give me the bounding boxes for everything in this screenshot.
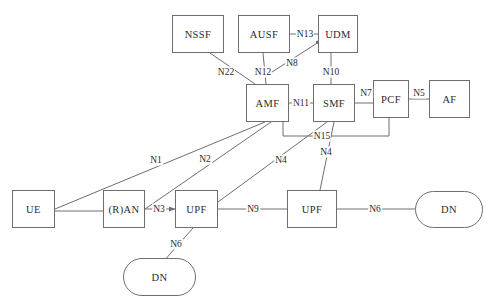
node-label-af: AF (442, 94, 456, 105)
edge-label-n3: N3 (152, 204, 166, 215)
node-label-nssf: NSSF (185, 29, 212, 40)
edge-label-n4b: N4 (319, 147, 333, 158)
edge-label-n7: N7 (359, 88, 373, 99)
edge-label-n13: N13 (296, 29, 314, 40)
edge-label-n5: N5 (412, 88, 426, 99)
node-ue[interactable]: UE (12, 190, 55, 228)
node-upf1[interactable]: UPF (175, 190, 218, 228)
node-label-dn1: DN (152, 272, 168, 283)
edge-label-n10: N10 (322, 67, 340, 78)
node-label-upf2: UPF (302, 204, 322, 215)
diagram-canvas: NSSFAUSFUDMAMFSMFPCFAFUE(R)ANUPFUPFDNDN … (0, 0, 495, 308)
node-ran[interactable]: (R)AN (103, 190, 145, 228)
edge-label-n9: N9 (246, 204, 260, 215)
node-label-upf1: UPF (186, 204, 206, 215)
edge-label-n11: N11 (292, 98, 310, 109)
node-label-pcf: PCF (381, 94, 401, 105)
node-udm[interactable]: UDM (318, 15, 358, 53)
node-label-ausf: AUSF (250, 29, 278, 40)
edge-label-n6b: N6 (368, 204, 382, 215)
node-label-ue: UE (26, 204, 41, 215)
node-ausf[interactable]: AUSF (238, 15, 290, 53)
edge-label-n2: N2 (198, 154, 212, 165)
node-label-amf: AMF (256, 98, 280, 109)
connector-n1 (55, 122, 265, 209)
node-label-dn2: DN (441, 204, 457, 215)
node-smf[interactable]: SMF (313, 84, 355, 122)
node-label-ran: (R)AN (108, 204, 139, 215)
node-label-smf: SMF (323, 98, 345, 109)
node-upf2[interactable]: UPF (287, 190, 337, 228)
edge-label-n15: N15 (313, 131, 331, 142)
node-pcf[interactable]: PCF (373, 80, 409, 118)
edge-label-n12: N12 (254, 67, 272, 78)
edge-label-n6a: N6 (169, 239, 183, 250)
edge-label-n1: N1 (149, 155, 163, 166)
node-amf[interactable]: AMF (246, 84, 289, 122)
edge-label-n22: N22 (217, 67, 235, 78)
node-dn1[interactable]: DN (123, 258, 196, 296)
edge-label-n4a: N4 (274, 155, 288, 166)
node-af[interactable]: AF (429, 80, 470, 118)
node-nssf[interactable]: NSSF (172, 15, 224, 53)
edge-label-n8: N8 (285, 58, 299, 69)
node-dn2[interactable]: DN (415, 191, 483, 228)
node-label-udm: UDM (325, 29, 351, 40)
